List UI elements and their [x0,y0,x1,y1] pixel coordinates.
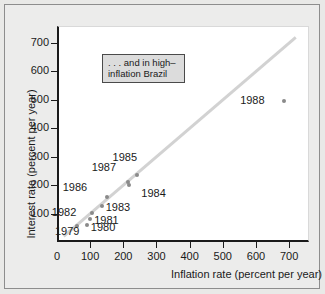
x-tick-mark [123,242,124,248]
y-axis-title: Interest rate (percent per year) [25,64,37,264]
x-tick-label: 100 [81,250,99,262]
data-point-1985 [135,173,139,177]
x-tick-label: 400 [180,250,198,262]
x-tick-mark [289,242,290,248]
callout-line-1: . . . and in high– [108,58,180,69]
plot-area: 100200300400500600700 010020030040050060… [57,26,309,242]
data-point-1982 [90,211,94,215]
y-tick-mark [51,157,57,158]
x-tick-label: 200 [114,250,132,262]
x-tick-label: 300 [147,250,165,262]
data-point-label-1979: 1979 [55,225,79,237]
y-tick-mark [51,43,57,44]
x-tick-mark [223,242,224,248]
y-tick-mark [51,128,57,129]
x-tick-mark [90,242,91,248]
x-tick-label: 500 [214,250,232,262]
data-point-label-1981: 1981 [94,214,118,226]
y-tick-label: 700 [31,36,49,48]
y-tick-mark [51,185,57,186]
x-tick-mark [156,242,157,248]
data-point-1988 [282,99,286,103]
y-axis-title-holder: Interest rate (percent per year) [14,30,28,230]
x-tick-label: 700 [280,250,298,262]
data-point-label-1987: 1987 [92,161,116,173]
data-point-label-1982: 1982 [52,206,76,218]
callout-annotation: . . . and in high– inflation Brazil [102,54,185,83]
data-point-1980 [85,223,89,227]
data-point-label-1986: 1986 [63,181,87,193]
chart-screenshot: 100200300400500600700 010020030040050060… [0,0,325,294]
x-axis-title: Inflation rate (percent per year) [171,268,322,280]
data-point-label-1985: 1985 [113,151,137,163]
x-tick-label: 0 [54,250,60,262]
x-tick-mark [256,242,257,248]
data-point-label-1983: 1983 [106,201,130,213]
data-point-label-1988: 1988 [240,94,264,106]
x-tick-mark [190,242,191,248]
data-point-label-1984: 1984 [141,187,165,199]
callout-line-2: inflation Brazil [108,69,180,80]
data-point-1983 [100,204,104,208]
x-tick-label: 600 [247,250,265,262]
y-tick-mark [51,100,57,101]
y-tick-mark [51,71,57,72]
